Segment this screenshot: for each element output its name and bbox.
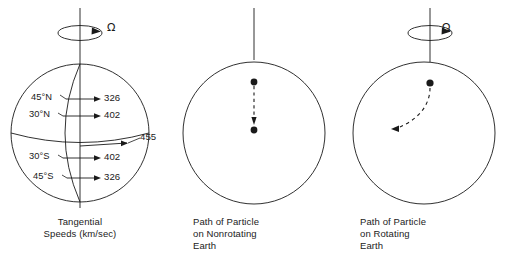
speed-arrowhead-30s: [94, 155, 101, 161]
particle-path-arrowhead-rotating: [391, 126, 399, 132]
speed-value-45n: 326: [104, 92, 120, 103]
speed-value-equator: 455: [140, 131, 156, 142]
omega-label-left: Ω: [107, 21, 115, 34]
latitude-leader-45n: [60, 95, 66, 99]
speed-arrow-line-equator: [80, 143, 127, 146]
omega-label-right: Ω: [442, 21, 450, 34]
panel-nonrotating-earth: [183, 8, 325, 204]
particle-end-dot-nonrotating: [251, 127, 258, 134]
earth-outline-rotating: [353, 62, 495, 204]
caption-rotating-earth: Path of Particle on Rotating Earth: [360, 216, 495, 253]
speed-value-30n: 402: [104, 109, 120, 120]
latitude-leader-30n: [58, 113, 63, 116]
latitude-label-45s: 45°S: [33, 171, 54, 181]
rotation-arrowhead-left: [92, 28, 102, 35]
caption-nonrotating-earth: Path of Particle on Nonrotating Earth: [193, 216, 328, 253]
speed-arrowhead-45n: [94, 96, 101, 102]
panel-rotating-earth: [353, 8, 495, 204]
panel-tangential-speeds: [11, 8, 149, 208]
particle-path-arrowhead-nonrotating: [251, 117, 256, 125]
latitude-label-30s: 30°S: [29, 151, 50, 161]
latitude-leader-30s: [58, 155, 63, 158]
equator-label-leader: [128, 138, 140, 143]
speed-value-30s: 402: [104, 151, 120, 162]
particle-start-dot-nonrotating: [251, 79, 258, 86]
caption-tangential-speeds: Tangential Speeds (km/sec): [20, 216, 140, 240]
meridian-arc: [65, 64, 80, 202]
particle-start-dot-rotating: [426, 79, 433, 86]
latitude-label-45n: 45°N: [31, 92, 52, 102]
latitude-leader-45s: [62, 175, 67, 178]
speed-arrowhead-45s: [94, 175, 101, 181]
particle-path-rotating: [400, 88, 430, 127]
speed-arrowhead-equator: [121, 141, 128, 147]
speed-arrowhead-30n: [94, 113, 101, 119]
latitude-label-30n: 30°N: [29, 109, 50, 119]
speed-value-45s: 326: [104, 171, 120, 182]
